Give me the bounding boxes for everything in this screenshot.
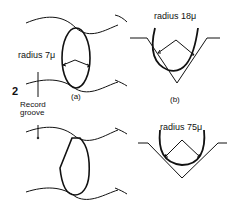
conical-groove-b <box>130 28 220 83</box>
figure-number: 2 <box>12 86 18 97</box>
radius-label-b: radius 18μ <box>154 12 196 21</box>
radius-label-a: radius 7μ <box>18 51 55 60</box>
caption-a: (a) <box>71 93 81 101</box>
right-edge-curves <box>115 15 127 194</box>
caption-b: (b) <box>170 96 180 104</box>
conical-groove-c <box>138 130 227 178</box>
worn-stylus <box>60 138 89 195</box>
radius-label-c: radius 75μ <box>160 123 202 132</box>
groove-label-line2: groove <box>20 109 44 117</box>
elliptical-stylus-a <box>62 28 90 88</box>
